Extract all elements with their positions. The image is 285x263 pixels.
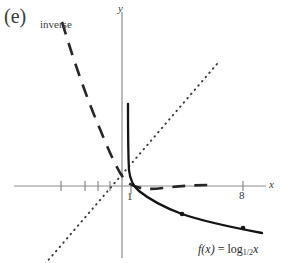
curve-point-marker	[180, 212, 185, 217]
equals-sign: =	[218, 242, 225, 256]
plot-canvas	[0, 0, 285, 263]
logarithm-curve	[128, 104, 262, 233]
function-equation-label: f(x) = log1/2x	[198, 243, 258, 257]
y-axis-label: y	[118, 3, 123, 14]
log-argument: x	[253, 242, 258, 256]
inverse-curve-label: inverse	[40, 19, 72, 30]
x-axis-label: x	[269, 179, 274, 190]
logarithm-graph-figure: (e) inverse y x 1 8 f(x) = log1/2x	[0, 0, 285, 263]
curve-point-marker	[241, 226, 246, 231]
identity-line	[45, 64, 217, 263]
function-name: f(x)	[198, 242, 215, 256]
inverse-exponential-curve	[62, 22, 210, 189]
log-operator: log	[227, 242, 242, 256]
x-tick-label-eight: 8	[239, 190, 245, 201]
x-tick-label-one: 1	[127, 191, 133, 202]
log-base: 1/2	[243, 248, 253, 257]
panel-label: (e)	[4, 6, 26, 26]
